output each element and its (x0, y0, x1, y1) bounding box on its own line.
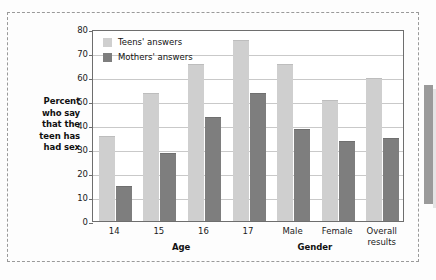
legend-label: Mothers' answers (118, 52, 193, 62)
chart-figure: Percent who say that the teen has had se… (0, 0, 436, 280)
y-axis-tick-label: 70 (66, 49, 88, 59)
bar-teens-male (277, 64, 293, 221)
legend-item-teens: Teens' answers (103, 35, 193, 49)
y-axis-tick-label: 0 (66, 217, 88, 227)
y-axis-tick-mark (89, 79, 93, 80)
y-axis-tick-mark (89, 127, 93, 128)
y-axis-tick-label: 60 (66, 73, 88, 83)
x-axis-tick-label-line: Overall (356, 226, 408, 237)
y-axis-tick-label: 50 (66, 97, 88, 107)
y-axis-tick-mark (89, 103, 93, 104)
legend-swatch-icon (103, 38, 112, 47)
bar-mothers-16 (205, 117, 221, 221)
y-axis-tick-label: 40 (66, 121, 88, 131)
y-axis-tick-mark (89, 55, 93, 56)
plot-area: Teens' answers Mothers' answers (92, 30, 404, 222)
bar-mothers-17 (250, 93, 266, 221)
y-axis-tick-mark (89, 175, 93, 176)
y-axis-tick-mark (89, 151, 93, 152)
bar-teens-17 (233, 40, 249, 221)
x-axis-tick-label: Overallresults (356, 226, 408, 247)
y-axis-tick-labels: 01020304050607080 (64, 30, 88, 222)
bar-teens-overall-results (366, 78, 382, 221)
legend-swatch-icon (103, 53, 112, 62)
bar-teens-14 (99, 136, 115, 221)
bar-teens-15 (143, 93, 159, 221)
y-axis-tick-label: 10 (66, 193, 88, 203)
y-axis-tick-mark (89, 223, 93, 224)
x-axis-group-title: Age (141, 242, 221, 252)
x-axis-tick-label-line: results (356, 237, 408, 248)
y-axis-tick-label: 20 (66, 169, 88, 179)
adjacent-figure-bar-fragment (424, 85, 433, 204)
bar-teens-female (322, 100, 338, 221)
bar-mothers-male (294, 129, 310, 221)
bar-mothers-14 (116, 186, 132, 221)
y-axis-tick-label: 30 (66, 145, 88, 155)
legend-item-mothers: Mothers' answers (103, 50, 193, 64)
chart-legend: Teens' answers Mothers' answers (103, 35, 193, 65)
y-axis-tick-mark (89, 31, 93, 32)
bar-mothers-overall-results (383, 138, 399, 221)
bar-mothers-female (339, 141, 355, 221)
legend-label: Teens' answers (118, 37, 182, 47)
bar-teens-16 (188, 64, 204, 221)
bar-mothers-15 (160, 153, 176, 221)
x-axis-group-title: Gender (275, 242, 355, 252)
y-axis-tick-mark (89, 199, 93, 200)
y-axis-tick-label: 80 (66, 25, 88, 35)
